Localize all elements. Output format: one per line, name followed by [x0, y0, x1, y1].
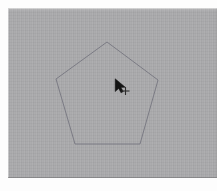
drawing-canvas[interactable]: [8, 8, 217, 178]
matte-top: [0, 0, 217, 8]
matte-bottom: [0, 178, 217, 191]
matte-left: [0, 0, 8, 191]
shape-layer: [8, 8, 217, 178]
pentagon-shape[interactable]: [56, 42, 158, 144]
canvas-bottom-edge: [8, 177, 217, 178]
screenshot-root: [0, 0, 217, 191]
